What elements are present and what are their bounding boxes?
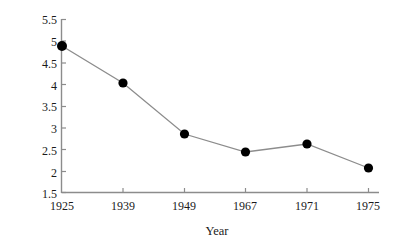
data-point-marker — [241, 147, 250, 156]
data-point-marker — [118, 78, 127, 87]
data-point-marker — [57, 41, 67, 51]
plot-area — [0, 0, 393, 244]
line-chart: US Dollars 5.5 5 4.5 4 3.5 3 2.5 2 1.5 1… — [0, 0, 393, 244]
data-point-marker — [302, 139, 311, 148]
data-point-marker — [180, 129, 189, 138]
data-markers — [57, 41, 373, 173]
data-series-line — [62, 46, 369, 168]
data-point-marker — [364, 163, 373, 172]
x-axis-title: Year — [62, 224, 372, 239]
